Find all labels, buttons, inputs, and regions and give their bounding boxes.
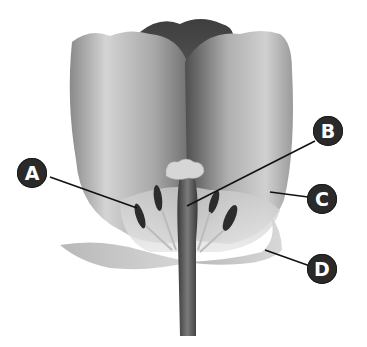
label-c: C — [307, 184, 337, 214]
flower-diagram: A B C D — [0, 0, 367, 347]
stem — [177, 176, 197, 336]
flower-illustration — [0, 0, 367, 347]
label-a: A — [17, 158, 47, 188]
label-d: D — [307, 254, 337, 284]
label-b: B — [313, 116, 343, 146]
leader-line-d — [265, 250, 310, 266]
